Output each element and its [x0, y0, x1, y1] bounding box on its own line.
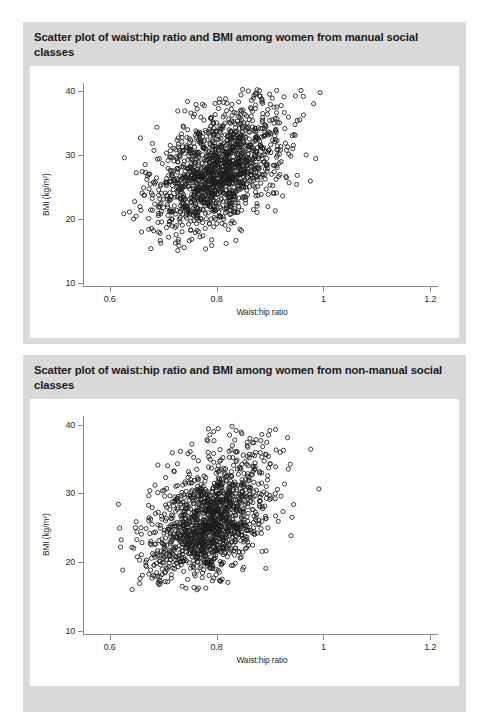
plot-area-non-manual: 102030400.60.811.2Waist:hip ratioBMI (kg…	[30, 399, 459, 686]
plot-frame-non-manual: 102030400.60.811.2Waist:hip ratioBMI (kg…	[30, 399, 459, 686]
plot-area-manual: 102030400.60.811.2Waist:hip ratioBMI (kg…	[30, 66, 459, 338]
figure-title-non-manual: Scatter plot of waist:hip ratio and BMI …	[23, 355, 466, 399]
figure-panel-non-manual: Scatter plot of waist:hip ratio and BMI …	[23, 355, 466, 712]
figure-panel-manual: Scatter plot of waist:hip ratio and BMI …	[23, 22, 466, 344]
figure-page: Scatter plot of waist:hip ratio and BMI …	[0, 0, 482, 725]
plot-frame-manual: 102030400.60.811.2Waist:hip ratioBMI (kg…	[30, 66, 459, 338]
figure-title-manual: Scatter plot of waist:hip ratio and BMI …	[23, 22, 466, 66]
scatter-points-layer	[30, 66, 459, 338]
scatter-points-layer	[30, 399, 459, 686]
